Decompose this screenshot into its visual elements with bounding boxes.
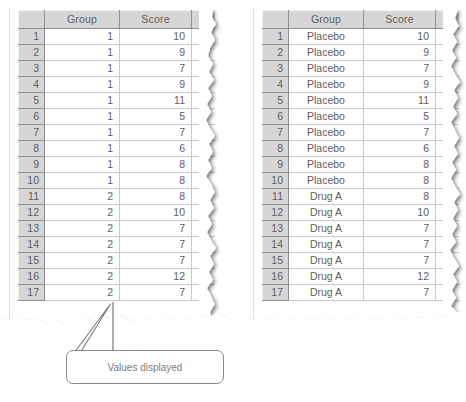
cell-empty[interactable]	[436, 45, 459, 61]
cell-score[interactable]: 7	[120, 125, 192, 141]
table-row[interactable]: 3Placebo7	[263, 61, 459, 77]
cell-group[interactable]: Drug A	[289, 205, 364, 221]
cell-score[interactable]: 7	[120, 253, 192, 269]
row-number-cell[interactable]: 3	[263, 61, 289, 77]
cell-score[interactable]: 9	[364, 45, 436, 61]
cell-score[interactable]: 7	[364, 285, 436, 301]
row-number-cell[interactable]: 8	[263, 141, 289, 157]
cell-group[interactable]: 2	[45, 221, 120, 237]
cell-score[interactable]: 7	[120, 61, 192, 77]
cell-empty[interactable]	[436, 157, 459, 173]
cell-empty[interactable]	[436, 173, 459, 189]
cell-score[interactable]: 8	[120, 173, 192, 189]
row-number-cell[interactable]: 5	[263, 93, 289, 109]
table-row[interactable]: 9Placebo8	[263, 157, 459, 173]
cell-empty[interactable]	[192, 93, 215, 109]
table-row[interactable]: 16212	[19, 269, 215, 285]
cell-empty[interactable]	[436, 253, 459, 269]
table-row[interactable]: 7Placebo7	[263, 125, 459, 141]
cell-score[interactable]: 10	[120, 205, 192, 221]
cell-score[interactable]: 10	[364, 29, 436, 45]
cell-empty[interactable]	[436, 29, 459, 45]
row-number-cell[interactable]: 17	[263, 285, 289, 301]
column-header-group[interactable]: Group	[45, 11, 120, 29]
row-number-cell[interactable]: 10	[263, 173, 289, 189]
cell-group[interactable]: Placebo	[289, 173, 364, 189]
cell-empty[interactable]	[436, 205, 459, 221]
row-number-cell[interactable]: 5	[19, 93, 45, 109]
cell-score[interactable]: 8	[120, 189, 192, 205]
table-row[interactable]: 8Placebo6	[263, 141, 459, 157]
cell-empty[interactable]	[192, 29, 215, 45]
cell-group[interactable]: 1	[45, 45, 120, 61]
column-header-empty[interactable]	[436, 11, 459, 29]
cell-empty[interactable]	[192, 45, 215, 61]
cell-empty[interactable]	[436, 221, 459, 237]
cell-score[interactable]: 9	[364, 77, 436, 93]
row-number-cell[interactable]: 14	[263, 237, 289, 253]
cell-empty[interactable]	[192, 157, 215, 173]
row-number-cell[interactable]: 12	[263, 205, 289, 221]
row-number-cell[interactable]: 6	[263, 109, 289, 125]
cell-score[interactable]: 12	[120, 269, 192, 285]
cell-score[interactable]: 7	[364, 61, 436, 77]
cell-group[interactable]: 1	[45, 93, 120, 109]
cell-group[interactable]: 2	[45, 237, 120, 253]
cell-group[interactable]: 2	[45, 285, 120, 301]
cell-group[interactable]: 2	[45, 269, 120, 285]
cell-score[interactable]: 7	[120, 285, 192, 301]
row-number-cell[interactable]: 7	[19, 125, 45, 141]
cell-score[interactable]: 12	[364, 269, 436, 285]
row-number-cell[interactable]: 4	[19, 77, 45, 93]
cell-empty[interactable]	[192, 109, 215, 125]
row-number-cell[interactable]: 9	[263, 157, 289, 173]
row-number-cell[interactable]: 2	[19, 45, 45, 61]
cell-empty[interactable]	[436, 285, 459, 301]
table-row[interactable]: 11Drug A8	[263, 189, 459, 205]
table-row[interactable]: 15Drug A7	[263, 253, 459, 269]
cell-group[interactable]: Drug A	[289, 221, 364, 237]
cell-empty[interactable]	[436, 141, 459, 157]
row-number-cell[interactable]: 17	[19, 285, 45, 301]
cell-empty[interactable]	[192, 77, 215, 93]
cell-empty[interactable]	[436, 189, 459, 205]
cell-score[interactable]: 8	[364, 189, 436, 205]
row-number-cell[interactable]: 13	[263, 221, 289, 237]
cell-empty[interactable]	[192, 61, 215, 77]
table-row[interactable]: 6Placebo5	[263, 109, 459, 125]
cell-empty[interactable]	[192, 141, 215, 157]
table-row[interactable]: 1527	[19, 253, 215, 269]
spreadsheet-values[interactable]: Group Score 1110219317419511161571781691…	[18, 10, 214, 301]
table-row[interactable]: 816	[19, 141, 215, 157]
cell-score[interactable]: 7	[364, 125, 436, 141]
table-row[interactable]: 615	[19, 109, 215, 125]
cell-score[interactable]: 6	[120, 141, 192, 157]
cell-group[interactable]: Drug A	[289, 285, 364, 301]
table-row[interactable]: 918	[19, 157, 215, 173]
table-row[interactable]: 2Placebo9	[263, 45, 459, 61]
table-row[interactable]: 419	[19, 77, 215, 93]
row-number-cell[interactable]: 11	[19, 189, 45, 205]
row-number-cell[interactable]: 15	[19, 253, 45, 269]
cell-empty[interactable]	[192, 253, 215, 269]
cell-empty[interactable]	[436, 93, 459, 109]
cell-score[interactable]: 8	[364, 173, 436, 189]
cell-score[interactable]: 7	[364, 253, 436, 269]
cell-group[interactable]: 2	[45, 205, 120, 221]
column-header-row-number[interactable]	[19, 11, 45, 29]
data-grid-value-labels[interactable]: Group Score 1Placebo102Placebo93Placebo7…	[262, 10, 459, 301]
cell-group[interactable]: Drug A	[289, 253, 364, 269]
cell-group[interactable]: Drug A	[289, 237, 364, 253]
row-number-cell[interactable]: 4	[263, 77, 289, 93]
cell-group[interactable]: Placebo	[289, 141, 364, 157]
row-number-cell[interactable]: 7	[263, 125, 289, 141]
row-number-cell[interactable]: 8	[19, 141, 45, 157]
cell-score[interactable]: 11	[364, 93, 436, 109]
cell-group[interactable]: Placebo	[289, 93, 364, 109]
cell-empty[interactable]	[192, 237, 215, 253]
table-row[interactable]: 219	[19, 45, 215, 61]
table-row[interactable]: 10Placebo8	[263, 173, 459, 189]
cell-empty[interactable]	[436, 61, 459, 77]
cell-score[interactable]: 7	[364, 221, 436, 237]
row-number-cell[interactable]: 16	[19, 269, 45, 285]
